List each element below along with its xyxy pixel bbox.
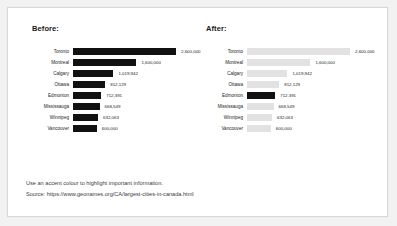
bar-category-label: Calgary [26,69,73,78]
bar-row: Mississauga 668,549 [26,102,206,111]
bar-category-label: Ottawa [26,80,73,89]
bar-row: Vancouver 600,000 [200,124,380,133]
bar-value-label: 668,549 [274,102,295,111]
bar-row: Edmonton 712,391 [26,91,206,100]
bar-row: Calgary 1,019,942 [200,69,380,78]
bar-category-label: Winnipeg [200,113,247,122]
bar-track: 668,549 [73,102,120,111]
panel-title-after: After: [206,24,380,33]
bar-ottawa [247,81,279,89]
bar-mississauga [247,103,274,111]
bar-mississauga [73,103,100,111]
bar-ottawa [73,81,105,89]
bar-value-label: 1,600,000 [136,58,161,67]
bar-edmonton [73,92,101,100]
bar-vancouver [247,125,271,133]
bar-row: Ottawa 812,129 [200,80,380,89]
bar-calgary [247,70,287,78]
bar-value-label: 632,063 [272,113,293,122]
footer-source: Source: https://www.geonames.org/CA/larg… [26,189,371,200]
bar-value-label: 812,129 [279,80,300,89]
bar-category-label: Calgary [200,69,247,78]
bar-row: Ottawa 812,129 [26,80,206,89]
bar-edmonton-highlighted [247,92,275,100]
bar-track: 1,600,000 [247,58,335,67]
bar-track: 1,019,942 [73,69,138,78]
bar-track: 632,063 [73,113,119,122]
bar-value-label: 2,600,000 [176,47,201,56]
bar-toronto [247,48,350,56]
bar-value-label: 632,063 [98,113,119,122]
bar-row: Montreal 1,600,000 [200,58,380,67]
bar-track: 1,019,942 [247,69,312,78]
slide-card: Before: Toronto 2,600,000 Montreal 1,600… [7,7,388,217]
panel-title-before: Before: [32,24,206,33]
bar-category-label: Edmonton [200,91,247,100]
bar-row: Toronto 2,600,000 [200,47,380,56]
bar-track: 812,129 [73,80,126,89]
slide-footer: Use an accent colour to highlight import… [26,178,371,200]
bar-row: Mississauga 668,549 [200,102,380,111]
bar-category-label: Toronto [26,47,73,56]
bar-vancouver [73,125,97,133]
charts-container: Before: Toronto 2,600,000 Montreal 1,600… [8,24,387,164]
bar-row: Winnipeg 632,063 [200,113,380,122]
bar-track: 600,000 [73,124,118,133]
bar-winnipeg [73,114,98,122]
bar-row: Calgary 1,019,942 [26,69,206,78]
bar-category-label: Vancouver [26,124,73,133]
bar-montreal [247,59,310,67]
bar-track: 600,000 [247,124,292,133]
bar-value-label: 668,549 [100,102,121,111]
chart-panel-after: After: Toronto 2,600,000 Montreal 1,600,… [200,24,380,164]
bar-track: 632,063 [247,113,293,122]
chart-panel-before: Before: Toronto 2,600,000 Montreal 1,600… [26,24,206,164]
bar-track: 812,129 [247,80,300,89]
bar-category-label: Mississauga [200,102,247,111]
bar-category-label: Edmonton [26,91,73,100]
bar-value-label: 2,600,000 [350,47,375,56]
bar-winnipeg [247,114,272,122]
bar-value-label: 600,000 [97,124,118,133]
bar-row: Montreal 1,600,000 [26,58,206,67]
bar-montreal [73,59,136,67]
bar-value-label: 1,019,942 [113,69,138,78]
bar-category-label: Winnipeg [26,113,73,122]
bar-track: 2,600,000 [247,47,375,56]
bar-chart-after: Toronto 2,600,000 Montreal 1,600,000 Cal… [200,47,380,133]
bar-row: Toronto 2,600,000 [26,47,206,56]
bar-track: 1,600,000 [73,58,161,67]
bar-category-label: Montreal [200,58,247,67]
bar-value-label: 712,391 [275,91,296,100]
bar-track: 712,391 [73,91,122,100]
bar-value-label: 712,391 [101,91,122,100]
bar-calgary [73,70,113,78]
bar-category-label: Ottawa [200,80,247,89]
bar-value-label: 600,000 [271,124,292,133]
bar-category-label: Toronto [200,47,247,56]
bar-track: 668,549 [247,102,294,111]
bar-row: Edmonton 712,391 [200,91,380,100]
bar-track: 2,600,000 [73,47,201,56]
bar-category-label: Mississauga [26,102,73,111]
bar-value-label: 1,019,942 [287,69,312,78]
bar-chart-before: Toronto 2,600,000 Montreal 1,600,000 Cal… [26,47,206,133]
bar-value-label: 812,129 [105,80,126,89]
bar-toronto [73,48,176,56]
bar-track: 712,391 [247,91,296,100]
footer-note: Use an accent colour to highlight import… [26,178,371,189]
bar-category-label: Vancouver [200,124,247,133]
bar-category-label: Montreal [26,58,73,67]
bar-value-label: 1,600,000 [310,58,335,67]
bar-row: Vancouver 600,000 [26,124,206,133]
bar-row: Winnipeg 632,063 [26,113,206,122]
